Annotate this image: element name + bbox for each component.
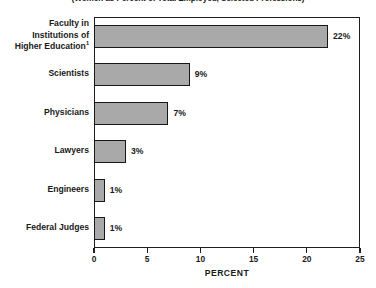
bar-1 xyxy=(94,63,190,86)
category-label-0: Faculty inInstitutions ofHigher Educatio… xyxy=(15,18,89,52)
category-label-3: Lawyers xyxy=(55,145,89,156)
bar-value-label-1: 9% xyxy=(195,69,207,79)
bar-4 xyxy=(94,179,105,202)
chart-subtitle: (Women as Percent of Total Employed, Sel… xyxy=(0,0,376,3)
x-tick-label-4: 20 xyxy=(302,254,311,264)
bars-layer: 22%9%7%3%1%1% xyxy=(94,17,360,248)
x-tick-label-5: 25 xyxy=(355,254,364,264)
category-label-1: Scientists xyxy=(48,68,89,79)
x-axis: PERCENT 0510152025 xyxy=(94,248,360,288)
bar-value-label-5: 1% xyxy=(110,223,122,233)
bar-chart-figure: (Women as Percent of Total Employed, Sel… xyxy=(0,0,376,288)
x-tick-4 xyxy=(306,248,307,253)
x-tick-0 xyxy=(93,248,94,253)
category-label-2: Physicians xyxy=(44,107,89,118)
bar-value-label-2: 7% xyxy=(173,108,185,118)
category-axis-labels: Faculty inInstitutions ofHigher Educatio… xyxy=(0,17,92,248)
bar-value-label-3: 3% xyxy=(131,146,143,156)
bar-3 xyxy=(94,140,126,163)
bar-value-label-0: 22% xyxy=(333,31,350,41)
x-tick-1 xyxy=(147,248,148,253)
x-tick-label-1: 5 xyxy=(145,254,150,264)
category-label-5: Federal Judges xyxy=(26,222,89,233)
x-tick-label-0: 0 xyxy=(92,254,97,264)
x-tick-label-3: 15 xyxy=(249,254,258,264)
footnote-marker: 1 xyxy=(86,40,89,46)
x-tick-3 xyxy=(253,248,254,253)
bar-5 xyxy=(94,217,105,240)
x-tick-label-2: 10 xyxy=(196,254,205,264)
bar-2 xyxy=(94,102,168,125)
x-tick-5 xyxy=(359,248,360,253)
bar-0 xyxy=(94,25,328,48)
x-axis-title: PERCENT xyxy=(94,268,360,278)
category-label-4: Engineers xyxy=(47,184,89,195)
bar-value-label-4: 1% xyxy=(110,185,122,195)
x-tick-2 xyxy=(200,248,201,253)
